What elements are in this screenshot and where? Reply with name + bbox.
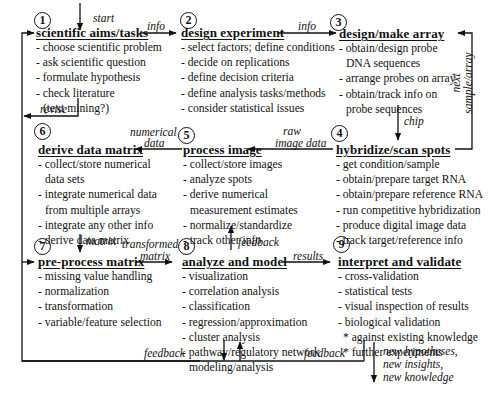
step-5-item: - derive numerical bbox=[183, 187, 298, 202]
label-image-data: image data bbox=[275, 137, 326, 149]
label-next: next bbox=[450, 63, 462, 103]
step-2-list: - select factors; define conditions - de… bbox=[181, 40, 335, 116]
step-8-item: - regression/approximation bbox=[182, 315, 320, 330]
step-4-item: - obtain/prepare reference RNA bbox=[336, 187, 483, 202]
label-sample-array: sample/array bbox=[462, 38, 474, 128]
step-6-item: - integrate any other info bbox=[38, 218, 157, 233]
step-1-item: - ask scientific question bbox=[36, 55, 162, 70]
step-4-item: - track target/reference info bbox=[336, 233, 483, 248]
step-7-list: - missing value handling - normalization… bbox=[38, 269, 162, 330]
step-6-item: - collect/store numerical bbox=[38, 157, 157, 172]
step-6-item: from multiple arrays bbox=[38, 203, 157, 218]
step-5-item: - normalize/standardize bbox=[183, 218, 298, 233]
step-5-item: - collect/store images bbox=[183, 157, 298, 172]
label-revise: revise bbox=[40, 103, 67, 115]
step-9-title: interpret and validate bbox=[338, 254, 461, 270]
label-info-1-2: info bbox=[147, 20, 165, 32]
step-5-item: measurement estimates bbox=[183, 203, 298, 218]
step-4-list: - get condition/sample - obtain/prepare … bbox=[336, 157, 483, 248]
label-start: start bbox=[93, 12, 114, 24]
label-feedback-up: feedback bbox=[238, 236, 279, 248]
microarray-workflow-diagram: 1 scientific aims/tasks - choose scienti… bbox=[0, 0, 491, 396]
step-7-item: - variable/feature selection bbox=[38, 315, 162, 330]
step-9-item: - cross-validation bbox=[338, 269, 478, 284]
step-8-item: - classification bbox=[182, 299, 320, 314]
step-2-item: - consider statistical issues bbox=[181, 101, 335, 116]
step-9-item: - statistical tests bbox=[338, 284, 478, 299]
step-2-item: - define analysis tasks/methods bbox=[181, 86, 335, 101]
step-7-item: - missing value handling bbox=[38, 269, 162, 284]
step-9-number: 9 bbox=[333, 236, 350, 253]
step-8-item: - cluster analysis bbox=[182, 330, 320, 345]
step-2-item: - select factors; define conditions bbox=[181, 40, 335, 55]
step-3-item: - arrange probes on array bbox=[339, 71, 456, 86]
step-9-item: * against existing knowledge bbox=[338, 330, 478, 345]
label-feedback-bottom-right: feedback bbox=[304, 347, 345, 359]
label-matrix: matrix bbox=[86, 235, 116, 247]
step-1-item: - check literature bbox=[36, 86, 162, 101]
step-8-item: - visualization bbox=[182, 269, 320, 284]
step-6-title: derive data matrix bbox=[38, 142, 143, 158]
step-3-item: - obtain/design probe bbox=[339, 41, 456, 56]
step-6-item: data sets bbox=[38, 172, 157, 187]
label-new-knowledge: new knowledge bbox=[383, 371, 454, 383]
step-5-list: - collect/store images - analyze spots -… bbox=[183, 157, 298, 248]
step-3-item: - obtain/track info on bbox=[339, 87, 456, 102]
step-6-item: - integrate numerical data bbox=[38, 187, 157, 202]
step-2-title: design experiment bbox=[181, 25, 284, 41]
label-raw: raw bbox=[283, 125, 301, 137]
step-9-item: - biological validation bbox=[338, 315, 478, 330]
label-data: data bbox=[144, 137, 164, 149]
label-chip: chip bbox=[404, 115, 424, 127]
step-1-title: scientific aims/tasks bbox=[36, 25, 148, 41]
label-feedback-bottom-left: feedback bbox=[144, 347, 185, 359]
step-7-number: 7 bbox=[34, 238, 51, 255]
step-3-list: - obtain/design probe DNA sequences - ar… bbox=[339, 41, 456, 117]
step-2-item: - decide on replications bbox=[181, 55, 335, 70]
step-8-title: analyze and model bbox=[182, 254, 287, 270]
step-5-item: - analyze spots bbox=[183, 172, 298, 187]
step-8-number: 8 bbox=[178, 238, 195, 255]
label-new-insights: new insights, bbox=[383, 358, 443, 370]
step-4-item: - produce digital image data bbox=[336, 218, 483, 233]
step-4-item: - get condition/sample bbox=[336, 157, 483, 172]
label-new-hypotheses: new hypotheses, bbox=[383, 345, 458, 357]
step-2-item: - define decision criteria bbox=[181, 70, 335, 85]
step-3-item: DNA sequences bbox=[339, 56, 456, 71]
step-4-number: 4 bbox=[331, 125, 348, 142]
label-results: results bbox=[293, 250, 323, 262]
step-8-item: - pathway/regulatory network bbox=[182, 345, 320, 360]
step-1-item: - choose scientific problem bbox=[36, 40, 162, 55]
step-9-item: - visual inspection of results bbox=[338, 299, 478, 314]
step-4-title: hybridize/scan spots bbox=[336, 142, 450, 158]
step-3-item: probe sequences bbox=[339, 102, 456, 117]
label-info-2-3: info bbox=[298, 20, 316, 32]
step-6-number: 6 bbox=[34, 123, 51, 140]
step-3-title: design/make array bbox=[339, 26, 444, 42]
step-7-item: - normalization bbox=[38, 284, 162, 299]
label-transformed-matrix: matrix bbox=[140, 250, 170, 262]
step-8-list: - visualization - correlation analysis -… bbox=[182, 269, 320, 375]
step-8-item: modeling/analysis bbox=[182, 360, 320, 375]
label-transformed: transformed bbox=[122, 238, 178, 250]
step-7-item: - transformation bbox=[38, 299, 162, 314]
step-4-item: - obtain/prepare target RNA bbox=[336, 172, 483, 187]
step-5-title: process image bbox=[183, 142, 262, 158]
step-1-item: - formulate hypothesis bbox=[36, 70, 162, 85]
step-4-item: - run competitive hybridization bbox=[336, 203, 483, 218]
step-7-title: pre-process matrix bbox=[38, 254, 144, 270]
step-8-item: - correlation analysis bbox=[182, 284, 320, 299]
